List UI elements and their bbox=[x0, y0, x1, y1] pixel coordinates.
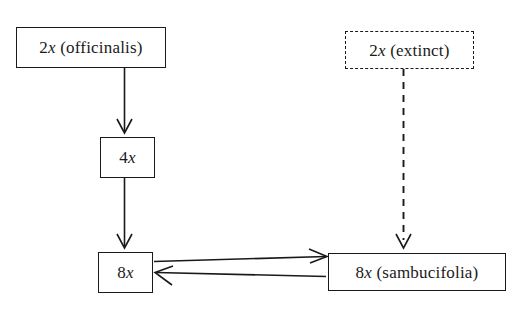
edge-extinct-to-sambucifolia bbox=[396, 69, 411, 248]
node-octoploid[interactable]: 8x bbox=[98, 252, 153, 293]
node-tetraploid[interactable]: 4x bbox=[100, 137, 155, 178]
edge-sambucifolia-to-8x bbox=[155, 266, 326, 285]
node-officinalis-label: 2x (officinalis) bbox=[39, 39, 142, 56]
edge-8x-to-sambucifolia bbox=[154, 249, 327, 263]
node-officinalis[interactable]: 2x (officinalis) bbox=[16, 27, 166, 68]
diagram-canvas: 2x (officinalis) 2x (extinct) 4x 8x 8x (… bbox=[0, 0, 522, 313]
node-sambucifolia-label: 8x (sambucifolia) bbox=[356, 264, 479, 281]
node-octoploid-label: 8x bbox=[117, 264, 133, 281]
node-extinct[interactable]: 2x (extinct) bbox=[345, 31, 474, 69]
edge-officinalis-to-4x bbox=[117, 68, 132, 133]
edge-4x-to-8x bbox=[117, 178, 132, 248]
node-tetraploid-label: 4x bbox=[119, 149, 135, 166]
node-sambucifolia[interactable]: 8x (sambucifolia) bbox=[328, 253, 506, 291]
node-extinct-label: 2x (extinct) bbox=[369, 42, 449, 59]
